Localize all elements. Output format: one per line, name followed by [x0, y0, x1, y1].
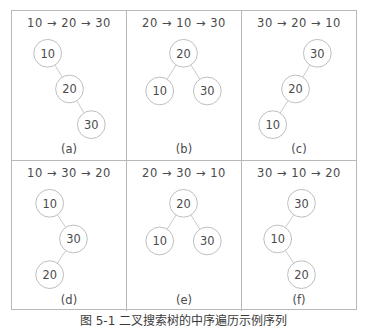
tree-node: 30: [288, 189, 316, 217]
tree-node: 30: [77, 111, 105, 139]
tree-panel-e: 20 → 30 → 10201030(e): [127, 161, 242, 311]
node-value: 10: [270, 232, 285, 246]
node-value: 20: [62, 82, 76, 96]
node-value: 30: [66, 232, 80, 246]
tree-panel-c: 30 → 20 → 10302010(c): [242, 11, 356, 161]
tree-edge: [285, 251, 293, 264]
node-value: 20: [42, 268, 57, 282]
panel-label: (b): [127, 142, 241, 156]
tree-node: 10: [146, 227, 174, 255]
tree-edge: [191, 215, 200, 229]
binary-search-tree: 201030: [127, 33, 241, 139]
tree-edge: [167, 215, 176, 229]
tree-panel-a: 10 → 20 → 30102030(a): [12, 11, 127, 161]
insertion-sequence: 20 → 10 → 30: [127, 16, 241, 30]
node-value: 20: [294, 268, 309, 282]
tree-node: 20: [288, 261, 316, 289]
tree-node: 30: [193, 227, 221, 255]
tree-node: 30: [303, 39, 331, 67]
node-value: 30: [310, 47, 325, 61]
node-value: 20: [176, 197, 190, 211]
tree-node: 10: [264, 225, 292, 253]
node-value: 20: [288, 82, 303, 96]
node-value: 10: [265, 118, 280, 132]
node-value: 10: [152, 234, 167, 248]
tree-node: 20: [170, 189, 198, 217]
tree-node: 20: [56, 75, 84, 103]
tree-edge: [303, 65, 310, 77]
insertion-sequence: 30 → 20 → 10: [242, 16, 356, 30]
insertion-sequence: 20 → 30 → 10: [127, 166, 241, 180]
panel-label: (d): [12, 293, 126, 307]
tree-node: 30: [60, 225, 88, 253]
insertion-sequence: 30 → 10 → 20: [242, 166, 356, 180]
insertion-sequence: 10 → 30 → 20: [12, 166, 126, 180]
tree-panel-f: 30 → 10 → 20301020(f): [242, 161, 356, 311]
tree-edge: [285, 215, 293, 228]
node-value: 30: [294, 197, 309, 211]
node-value: 10: [40, 47, 55, 61]
binary-search-tree: 302010: [242, 33, 356, 139]
tree-node: 10: [36, 189, 64, 217]
tree-panel-b: 20 → 10 → 30201030(b): [127, 11, 242, 161]
tree-node: 20: [36, 261, 64, 289]
node-value: 30: [84, 118, 99, 132]
tree-node: 10: [34, 39, 62, 67]
tree-edge: [55, 65, 62, 77]
figure-caption: 图 5-1 二叉搜索树的中序遍历示例序列: [0, 314, 367, 328]
insertion-sequence: 10 → 20 → 30: [12, 16, 126, 30]
tree-edge: [77, 101, 84, 113]
panel-label: (e): [127, 293, 241, 307]
binary-search-tree: 102030: [12, 33, 126, 139]
node-value: 10: [152, 84, 167, 98]
tree-node: 20: [170, 39, 198, 67]
binary-search-tree: 201030: [127, 183, 241, 289]
figure-root: 10 → 20 → 30102030(a)20 → 10 → 30201030(…: [0, 0, 367, 328]
tree-node: 30: [193, 77, 221, 105]
tree-edge: [280, 101, 288, 113]
panel-grid: 10 → 20 → 30102030(a)20 → 10 → 30201030(…: [11, 10, 357, 310]
tree-edge: [57, 251, 65, 264]
tree-edge: [57, 215, 65, 228]
tree-node: 20: [282, 75, 310, 103]
tree-edge: [191, 65, 200, 79]
panel-label: (f): [242, 293, 356, 307]
node-value: 20: [176, 47, 190, 61]
node-value: 30: [200, 234, 215, 248]
tree-edge: [167, 65, 176, 79]
node-value: 10: [42, 197, 57, 211]
tree-node: 10: [259, 111, 287, 139]
node-value: 30: [200, 84, 215, 98]
panel-label: (c): [242, 142, 356, 156]
binary-search-tree: 103020: [12, 183, 126, 289]
binary-search-tree: 301020: [242, 183, 356, 289]
tree-panel-d: 10 → 30 → 20103020(d): [12, 161, 127, 311]
panel-label: (a): [12, 142, 126, 156]
tree-node: 10: [146, 77, 174, 105]
